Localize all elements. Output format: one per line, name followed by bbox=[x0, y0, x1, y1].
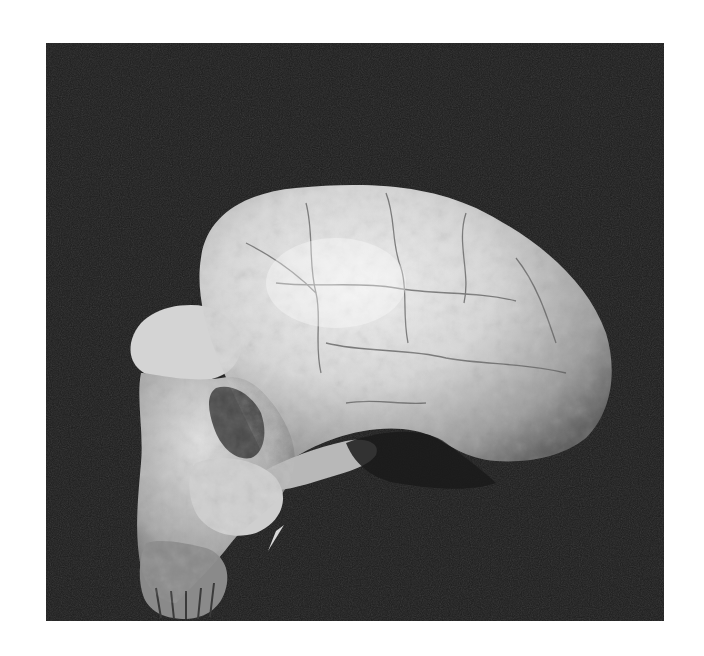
skull-photograph bbox=[46, 43, 664, 621]
skull-illustration bbox=[46, 43, 664, 621]
frontal-highlight bbox=[266, 238, 406, 328]
page bbox=[0, 0, 704, 656]
